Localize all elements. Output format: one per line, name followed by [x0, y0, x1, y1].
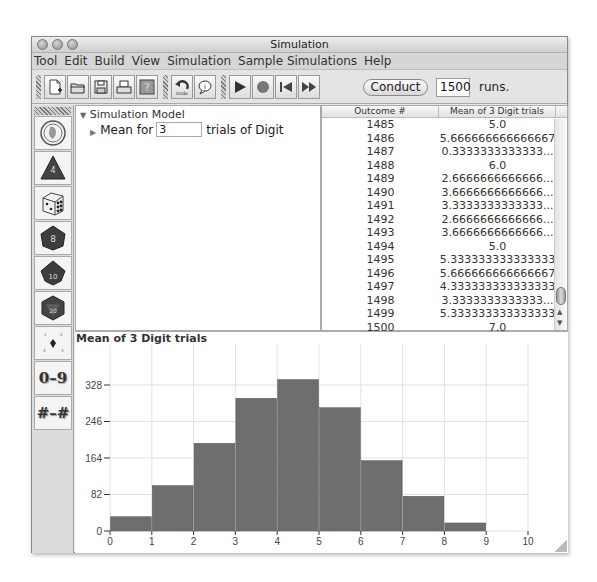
table-row[interactable]: 14886.0	[322, 159, 567, 173]
x-tick-label: 5	[316, 536, 322, 547]
play-button[interactable]	[229, 75, 251, 99]
table-row[interactable]: 14892.6666666666666...	[322, 172, 567, 186]
table-row[interactable]: 14965.666666666666667	[322, 267, 567, 281]
mean-value-cell: 5.666666666666667	[439, 132, 556, 146]
toolbar-grip[interactable]	[36, 75, 41, 99]
table-row[interactable]: 14870.3333333333333...	[322, 145, 567, 159]
palette-d8[interactable]: 8	[34, 221, 72, 255]
palette-grip[interactable]	[34, 107, 71, 115]
mean-value-cell: 6.0	[439, 159, 556, 173]
scroll-down-arrow-icon[interactable]: ▼	[557, 319, 562, 327]
stop-button[interactable]	[252, 75, 274, 99]
menu-simulation[interactable]: Simulation	[167, 54, 231, 68]
menu-build[interactable]: Build	[95, 54, 125, 68]
help-button[interactable]: ?	[136, 75, 158, 99]
palette-spinner[interactable]: 1243	[34, 326, 72, 360]
svg-text:3: 3	[61, 348, 64, 353]
mean-suffix-label: trials of Digit	[206, 123, 283, 137]
mean-value-cell: 2.6666666666666...	[439, 213, 556, 227]
tree-root[interactable]: ▼ Simulation Model	[80, 108, 185, 121]
outcome-number-cell: 1497	[322, 280, 439, 294]
histogram-bar	[152, 486, 193, 531]
column-header-mean[interactable]: Mean of 3 Digit trials	[439, 106, 556, 117]
x-tick-label: 6	[358, 536, 364, 547]
new-button[interactable]	[44, 75, 66, 99]
outcome-number-cell: 1499	[322, 307, 439, 321]
table-row[interactable]: 14865.666666666666667	[322, 132, 567, 146]
y-tick-label: 246	[85, 416, 102, 427]
svg-text:Undo: Undo	[176, 91, 188, 96]
tree-node-mean[interactable]: ▶ Mean for 3 trials of Digit	[90, 122, 284, 137]
fast-forward-icon	[301, 79, 317, 95]
mean-value-cell: 5.666666666666667	[439, 267, 556, 281]
histogram-bar	[111, 517, 152, 531]
outcome-number-cell: 1493	[322, 226, 439, 240]
menu-view[interactable]: View	[132, 54, 160, 68]
y-tick-label: 0	[96, 526, 102, 537]
table-row[interactable]: 14983.3333333333333...	[322, 294, 567, 308]
print-button[interactable]	[113, 75, 135, 99]
svg-text:?: ?	[144, 81, 150, 94]
title-bar[interactable]: Simulation	[32, 37, 567, 53]
svg-text:2: 2	[60, 332, 63, 337]
info-balloon-icon: i	[197, 79, 213, 95]
table-scrollbar[interactable]: ▲ ▼	[554, 119, 566, 330]
menu-edit[interactable]: Edit	[64, 54, 87, 68]
conduct-button[interactable]: Conduct	[363, 79, 428, 96]
menu-sample-simulations[interactable]: Sample Simulations	[238, 54, 357, 68]
svg-text:4: 4	[43, 348, 46, 353]
scroll-up-arrow-icon[interactable]: ▲	[557, 308, 562, 316]
table-row[interactable]: 14855.0	[322, 118, 567, 132]
palette-d6[interactable]	[34, 186, 72, 220]
column-header-outcome[interactable]: Outcome #	[322, 106, 439, 117]
table-row[interactable]: 14945.0	[322, 240, 567, 254]
coin-icon	[39, 119, 67, 147]
fast-forward-button[interactable]	[298, 75, 320, 99]
palette-digit[interactable]: 0–9	[34, 361, 72, 395]
mean-value-cell: 3.6666666666666...	[439, 186, 556, 200]
scroll-thumb[interactable]	[556, 287, 566, 305]
trials-count-input[interactable]: 3	[156, 122, 202, 137]
open-folder-icon	[70, 79, 86, 95]
spinner-icon: 1243	[39, 329, 67, 357]
toolbar-grip[interactable]	[163, 75, 168, 99]
runs-input[interactable]: 1500	[436, 78, 470, 97]
table-row[interactable]: 14913.3333333333333...	[322, 199, 567, 213]
outcome-number-cell: 1490	[322, 186, 439, 200]
menu-tool[interactable]: Tool	[34, 54, 57, 68]
palette-d10[interactable]: 10	[34, 256, 72, 290]
table-row[interactable]: 14955.333333333333333	[322, 253, 567, 267]
disclosure-triangle-open-icon[interactable]: ▼	[80, 111, 86, 120]
svg-text:4: 4	[50, 166, 55, 175]
undo-button[interactable]: Undo	[171, 75, 193, 99]
table-row[interactable]: 14922.6666666666666...	[322, 213, 567, 227]
save-button[interactable]	[90, 75, 112, 99]
outcome-number-cell: 1489	[322, 172, 439, 186]
y-tick-label: 164	[85, 453, 102, 464]
reset-button[interactable]	[275, 75, 297, 99]
x-tick-label: 3	[233, 536, 239, 547]
mean-value-cell: 5.333333333333333	[439, 253, 556, 267]
table-row[interactable]: 14995.333333333333333	[322, 307, 567, 321]
table-row[interactable]: 14974.333333333333333	[322, 280, 567, 294]
palette-coin[interactable]	[34, 116, 72, 150]
x-tick-label: 9	[483, 536, 489, 547]
info-button[interactable]: i	[194, 75, 216, 99]
palette-range[interactable]: #–#	[34, 396, 72, 430]
table-row[interactable]: 14933.6666666666666...	[322, 226, 567, 240]
y-tick-label: 328	[85, 380, 102, 391]
toolbar-grip[interactable]	[221, 75, 226, 99]
simulation-window: Simulation Tool Edit Build View Simulati…	[31, 36, 568, 553]
palette-d4[interactable]: 4	[34, 151, 72, 185]
mean-value-cell: 3.6666666666666...	[439, 226, 556, 240]
rewind-icon	[278, 79, 294, 95]
play-icon	[232, 79, 248, 95]
toolbar: ? Undo i Conduct 1500 runs.	[32, 70, 567, 104]
open-button[interactable]	[67, 75, 89, 99]
table-row[interactable]: 14903.6666666666666...	[322, 186, 567, 200]
disclosure-triangle-closed-icon[interactable]: ▶	[90, 128, 96, 137]
window-resize-grip[interactable]	[555, 540, 567, 552]
menu-help[interactable]: Help	[364, 54, 391, 68]
d20-die-icon: 20	[39, 294, 67, 322]
palette-d20[interactable]: 20	[34, 291, 72, 325]
